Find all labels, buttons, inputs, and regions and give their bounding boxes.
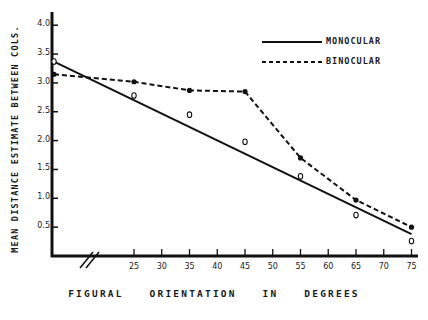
y-axis-label: MEAN DISTANCE ESTIMATE BETWEEN COLS. xyxy=(6,24,24,254)
binocular-data-point xyxy=(131,79,136,84)
y-tick-label: 3.0 xyxy=(28,77,50,86)
binocular-line xyxy=(54,74,412,227)
x-tick-label: 25 xyxy=(124,262,144,271)
x-tick-label: 45 xyxy=(235,262,255,271)
y-tick-label: 2.0 xyxy=(28,135,50,144)
y-axis-label-text: MEAN DISTANCE ESTIMATE BETWEEN COLS. xyxy=(10,25,20,252)
y-tick-label: 1.0 xyxy=(28,192,50,201)
y-tick-label: 1.5 xyxy=(28,163,50,172)
x-tick-label: 75 xyxy=(402,262,422,271)
y-tick-label: 4.0 xyxy=(28,19,50,28)
x-tick-label: 35 xyxy=(180,262,200,271)
binocular-data-point xyxy=(409,225,414,230)
axis-break-mark xyxy=(86,252,99,268)
binocular-data-point xyxy=(298,155,303,160)
x-tick-label: 65 xyxy=(346,262,366,271)
x-tick-label: 50 xyxy=(263,262,283,271)
x-tick-label: 60 xyxy=(318,262,338,271)
monocular-data-point xyxy=(243,139,247,145)
x-tick-label: 70 xyxy=(374,262,394,271)
x-axis-label: FIGURAL ORIENTATION IN DEGREES xyxy=(0,288,428,299)
monocular-data-point xyxy=(354,212,358,218)
binocular-data-point xyxy=(353,197,358,202)
binocular-data-point xyxy=(51,72,56,77)
y-tick-label: 0.5 xyxy=(28,221,50,230)
monocular-data-point xyxy=(187,112,191,118)
legend-binocular-label: BINOCULAR xyxy=(326,56,381,66)
axis-break-mark xyxy=(80,252,93,268)
monocular-data-point xyxy=(409,238,413,244)
line-chart: MEAN DISTANCE ESTIMATE BETWEEN COLS. FIG… xyxy=(0,0,428,320)
monocular-data-point xyxy=(132,93,136,99)
binocular-data-point xyxy=(187,88,192,93)
y-tick-label: 2.5 xyxy=(28,106,50,115)
x-tick-label: 40 xyxy=(207,262,227,271)
monocular-data-point xyxy=(52,59,56,65)
plot-area xyxy=(0,0,428,320)
x-tick-label: 55 xyxy=(291,262,311,271)
monocular-data-point xyxy=(298,174,302,180)
monocular-line xyxy=(54,62,412,235)
binocular-data-point xyxy=(242,89,247,94)
legend-monocular-label: MONOCULAR xyxy=(326,36,381,46)
y-tick-label: 3.5 xyxy=(28,48,50,57)
x-tick-label: 30 xyxy=(152,262,172,271)
